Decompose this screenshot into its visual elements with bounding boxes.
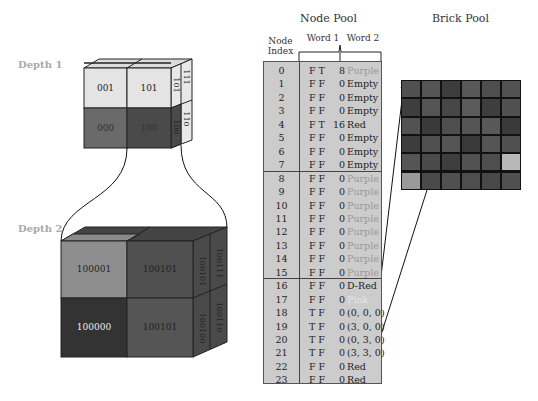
node-flags: F F [309,239,325,252]
brick-cell [442,99,460,115]
brick-cell [422,118,440,134]
node-pointer: 0 [333,346,345,359]
brick-cell [482,154,500,170]
node-pool-row: 15F F0Purple [264,266,381,279]
node-pool-table: 0F T8Purple1F F0Empty2F F0Empty3F F0Empt… [263,61,382,384]
node-index: 10 [264,199,299,212]
node-value: Empty [347,158,378,171]
brick-cell [502,154,520,170]
node-pointer: 8 [333,64,345,77]
node-pointer: 0 [333,91,345,104]
brick-cell [442,154,460,170]
node-index: 16 [264,279,299,292]
brick-cell [422,173,440,189]
node-flags: F F [309,279,325,292]
node-pool-row: 21T F0(3, 3, 0) [264,346,381,359]
node-index: 7 [264,158,299,171]
node-pool-title: Node Pool [300,12,357,25]
brick-cell [402,173,420,189]
node-flags: F F [309,266,325,279]
node-pool-row: 5F F0Empty [264,131,381,144]
node-flags: F F [309,158,325,171]
node-pointer: 0 [333,333,345,346]
node-pool-row: 8F F0Purple [264,172,381,185]
cube-cell-label: 100 [127,108,171,148]
node-pool-row: 20T F0(0, 3, 0) [264,333,381,346]
cube-side-label: 100 [171,112,181,142]
node-pointer: 0 [333,252,345,265]
node-index: 4 [264,118,299,131]
node-pointer: 0 [333,104,345,117]
node-index: 23 [264,373,299,386]
node-flags: F F [309,212,325,225]
node-index: 0 [264,64,299,77]
node-index: 19 [264,320,299,333]
node-index: 6 [264,145,299,158]
node-value: Purple [347,212,379,225]
node-value: Red [347,118,366,131]
brick-cell [462,81,480,97]
node-pool-row: 6F F0Empty [264,145,381,158]
node-flags: T F [309,306,325,319]
brick-cell [422,136,440,152]
cube-side-label: 111 [181,62,191,92]
node-flags: T F [309,346,325,359]
word2-header: Word 2 [343,33,383,43]
node-flags: F T [309,64,325,77]
node-value: D-Red [347,279,377,292]
node-flags: F F [309,172,325,185]
brick-cell [482,136,500,152]
node-value: Empty [347,91,378,104]
node-value: Purple [347,185,379,198]
brick-cell [462,118,480,134]
connector-curve-right [181,145,227,228]
node-pointer: 0 [333,279,345,292]
node-value: Red [347,373,366,386]
node-value: Purple [347,225,379,238]
node-flags: F F [309,199,325,212]
brick-cell [482,173,500,189]
node-pointer: 0 [333,373,345,386]
node-pool-row: 2F F0Empty [264,91,381,104]
node-flags: F F [309,360,325,373]
node-pointer: 0 [333,199,345,212]
brick-cell [462,99,480,115]
node-pool-row: 16F F0D-Red [264,279,381,292]
node-pool-row: 22F F0Red [264,360,381,373]
node-pool-row: 12F F0Purple [264,225,381,238]
brick-cell [442,81,460,97]
node-value: Purple [347,266,379,279]
brick-cell [502,99,520,115]
brick-cell [462,136,480,152]
node-value: Purple [347,239,379,252]
node-pool-row: 4F T16Red [264,118,381,131]
node-index: 21 [264,346,299,359]
cube-side-label: 100101 [197,246,207,296]
group-separator [264,278,381,279]
brick-cell [422,154,440,170]
brick-cell [502,81,520,97]
node-index: 2 [264,91,299,104]
node-pointer: 0 [333,145,345,158]
node-pool-row: 13F F0Purple [264,239,381,252]
node-index: 20 [264,333,299,346]
node-pointer: 0 [333,212,345,225]
node-pointer: 0 [333,293,345,306]
node-pool-row: 18T F0(0, 0, 0) [264,306,381,319]
node-flags: F F [309,145,325,158]
node-index: 22 [264,360,299,373]
cube-cell-label: 100101 [127,241,193,298]
node-pool-row: 11F F0Purple [264,212,381,225]
cube-side-label: 100111 [214,238,224,288]
brick-cell [402,99,420,115]
node-index: 15 [264,266,299,279]
node-value: (3, 3, 0) [347,346,385,359]
node-pool-row: 10F F0Purple [264,199,381,212]
cube-cell-label: 100000 [61,298,127,357]
node-pool-row: 7F F0Empty [264,158,381,171]
node-index: 11 [264,212,299,225]
node-flags: F F [309,373,325,386]
node-value: Red [347,360,366,373]
cube-cell-label: 000 [84,108,127,148]
brick-cell [402,136,420,152]
